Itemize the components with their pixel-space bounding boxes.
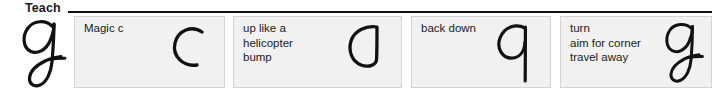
q-stroke	[488, 17, 544, 89]
open-c-stroke-icon	[162, 17, 218, 89]
cursive-g-glyph	[16, 14, 74, 98]
panel-instruction-text: Magic c	[84, 21, 124, 36]
helicopter-bump-stroke	[339, 17, 395, 89]
letter-formation-strip: Teach Magic c up like	[0, 0, 725, 100]
panel-up-like-a-helicopter-bump[interactable]: up like a helicopter bump	[233, 16, 402, 88]
panel-magic-c[interactable]: Magic c	[74, 16, 225, 88]
panel-instruction-text: back down	[421, 21, 476, 36]
panel-turn-aim-travel[interactable]: turn aim for corner travel away	[560, 16, 712, 88]
q-stroke-icon	[488, 17, 544, 89]
header-divider-rule	[68, 11, 712, 13]
open-c-stroke	[162, 17, 218, 89]
cursive-g-glyph-icon	[657, 17, 713, 89]
panel-back-down[interactable]: back down	[411, 16, 551, 88]
cursive-g-glyph	[657, 17, 713, 93]
helicopter-bump-stroke-icon	[339, 17, 395, 89]
exemplar-letter-g	[16, 14, 74, 98]
panel-instruction-text: up like a helicopter bump	[243, 21, 293, 65]
panel-instruction-text: turn aim for corner travel away	[570, 21, 641, 65]
panel-strip: Magic c up like a helicopter bump back d…	[74, 16, 713, 88]
teach-label: Teach	[25, 1, 61, 15]
